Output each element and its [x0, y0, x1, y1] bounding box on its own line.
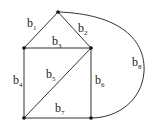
edges — [24, 12, 144, 118]
edge-labels: b1 b2 b3 b4 b5 b6 b7 b8 — [13, 16, 142, 117]
node-mid-right — [89, 46, 93, 50]
graph-svg: b1 b2 b3 b4 b5 b6 b7 b8 — [0, 0, 153, 126]
node-mid-left — [22, 46, 26, 50]
label-b5: b5 — [46, 67, 56, 83]
label-b8: b8 — [132, 55, 142, 71]
label-b4: b4 — [13, 73, 23, 89]
node-top — [56, 10, 60, 14]
label-b2: b2 — [78, 21, 88, 37]
graph-diagram: b1 b2 b3 b4 b5 b6 b7 b8 — [0, 0, 153, 126]
node-bottom-left — [22, 116, 26, 120]
node-bottom-right — [89, 116, 93, 120]
label-b1: b1 — [27, 16, 37, 32]
label-b7: b7 — [55, 101, 65, 117]
label-b3: b3 — [52, 34, 62, 50]
label-b6: b6 — [95, 73, 105, 89]
